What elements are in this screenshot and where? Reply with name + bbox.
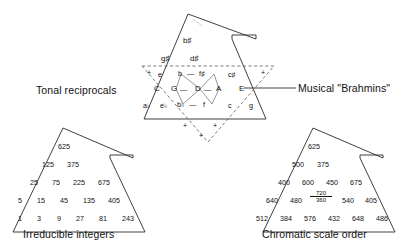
star-note-bsharp: b♯ [183,36,191,45]
chromatic-cell: 405 [361,196,381,205]
chromatic-cell: 648 [348,214,368,223]
integer-cell: 625 [54,142,74,151]
integer-cell: 45 [56,196,72,205]
chromatic-cell: 625 [304,142,324,151]
chromatic-cell: 400 [274,178,294,187]
chromatic-cell: 486 [372,214,392,223]
integer-cell: 405 [104,196,124,205]
integer-cell: 675 [94,178,114,187]
star-note-c: c [228,101,232,110]
chromatic-cell: 375 [313,160,333,169]
star-note-gsharp: g♯ [161,54,169,63]
tonal-reciprocals-caption: Tonal reciprocals [36,84,117,96]
chromatic-cell: 512 [252,214,272,223]
lattice-dash-mid-left: — [180,85,187,94]
lattice-dash-mid-right: — [204,85,211,94]
integer-cell: 15 [33,196,49,205]
lattice-note-bflat: b♭ [177,100,184,109]
integer-cell: 5 [13,196,27,205]
plus-mark-bottom-center: + [199,132,203,139]
chromatic-cell: 500 [288,160,308,169]
star-note-csharp: c♯ [228,70,235,79]
integer-cell: 25 [25,178,43,187]
chromatic-cell: 640 [262,196,282,205]
apex-tick [193,19,202,26]
lattice-note-D: D [195,84,201,93]
integer-cell: 135 [79,196,99,205]
figure-lines [0,0,410,242]
chromatic-cell: 540 [338,196,358,205]
figure-canvas: b♯ g♯ d♯ e C a♭ e♭ c♯ E c g b — f♯ G — D… [0,0,410,242]
chromatic-cell: 480 [286,196,306,205]
star-note-g: g [249,101,253,110]
integer-cell: 27 [73,214,87,223]
lattice-dash-bot: — [189,100,196,109]
musical-brahmins-caption: Musical "Brahmins" [298,82,390,94]
plus-mark-bottom-right: + [213,122,217,129]
chromatic-scale-order-caption: Chromatic scale order [262,228,367,240]
chromatic-cell: 450 [322,178,342,187]
star-note-e-upper: e [158,70,162,79]
integer-cell: 81 [96,214,110,223]
irreducible-integers-caption: Irreducible integers [23,228,114,240]
lattice-note-b: b [178,69,182,78]
chromatic-cell: 576 [300,214,320,223]
lattice-note-G: G [171,84,177,93]
integer-cell: 75 [47,178,65,187]
star-note-C: C [154,84,160,93]
integer-cell: 375 [63,160,83,169]
plus-mark-left: + [147,69,151,76]
chromatic-cell: 675 [346,178,366,187]
integer-cell: 125 [38,160,58,169]
star-note-eflat: e♭ [160,101,167,110]
integer-cell: 3 [34,214,44,223]
fraction-numerator: 720 [316,189,326,196]
integer-cell: 243 [118,214,138,223]
star-note-aflat: a♭ [143,101,150,110]
fraction-denominator: 360 [316,196,326,203]
chromatic-cell: 600 [298,178,318,187]
lattice-note-f: f [203,100,205,109]
lattice-dash-top: — [187,69,194,78]
lattice-note-fsharp: f♯ [199,69,205,78]
lattice-note-A: A [216,84,221,93]
plus-mark-right: + [261,69,265,76]
plus-mark-bottom-left: + [183,122,187,129]
star-note-E: E [239,84,244,93]
chromatic-cell: 384 [276,214,296,223]
integer-cell: 225 [69,178,89,187]
chromatic-cell-fraction: 720 360 [310,190,332,203]
integer-cell: 9 [54,214,64,223]
integer-cell: 1 [15,214,25,223]
star-note-dsharp: d♯ [190,54,198,63]
chromatic-cell: 432 [324,214,344,223]
